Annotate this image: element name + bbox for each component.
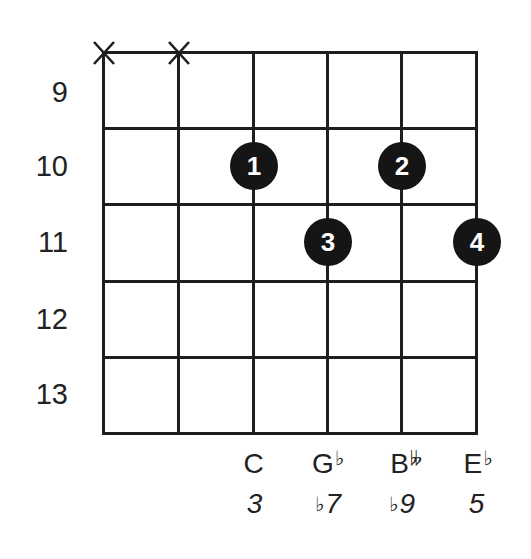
mute-x-icon [166,40,192,66]
fret-label-12: 12 [8,305,68,334]
fret-label-9: 9 [8,78,68,107]
finger-dot-1: 1 [230,142,278,190]
interval-label: 3 [224,490,284,518]
fret-label-13: 13 [8,380,68,409]
fret-label-10: 10 [8,152,68,181]
fret-line-top [102,51,478,54]
string-line-2 [177,52,180,435]
mute-x-icon [91,40,117,66]
note-name: C [224,450,284,478]
fret-line-bottom [102,432,478,435]
finger-dot-3: 3 [304,218,352,266]
fret-line-3 [102,280,478,283]
fret-label-11: 11 [8,228,68,257]
fret-line-4 [102,356,478,359]
string-line-3 [252,52,255,435]
interval-label: 5 [446,490,506,518]
fret-line-2 [102,203,478,206]
interval-label: ♭7 [298,490,358,518]
finger-dot-4: 4 [453,218,501,266]
finger-dot-2: 2 [378,142,426,190]
note-name: B𝄫 [376,450,436,478]
string-line-5 [400,52,403,435]
note-name: G♭ [298,450,358,478]
string-line-1 [102,52,105,435]
fret-line-1 [102,127,478,130]
interval-label: ♭9 [372,490,432,518]
note-name: E♭ [448,450,508,478]
